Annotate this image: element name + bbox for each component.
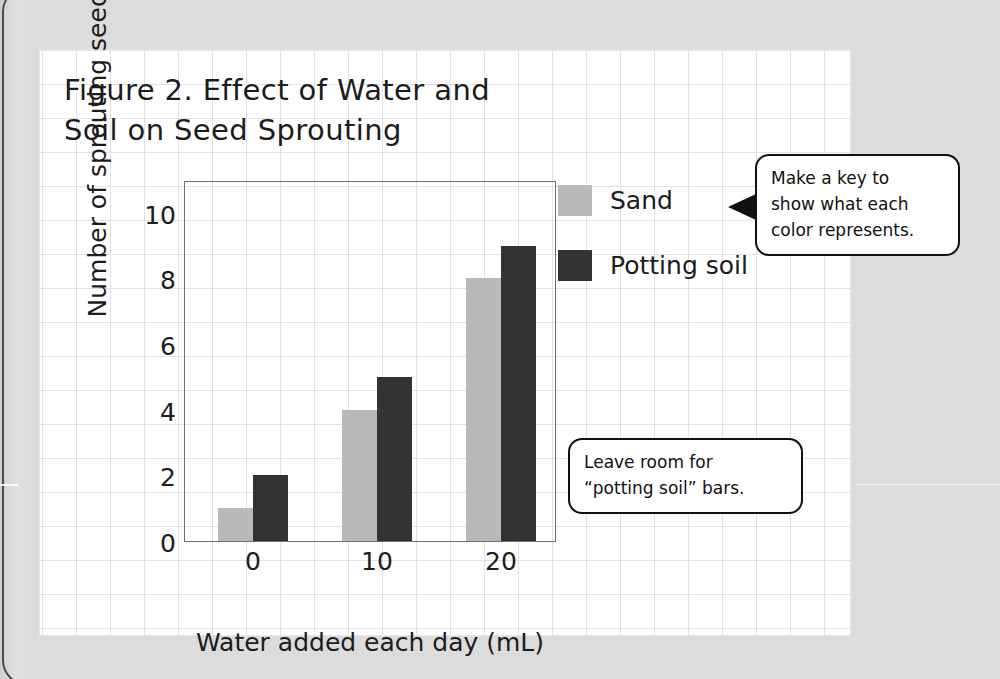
bar-potting-soil-10 xyxy=(377,377,412,541)
y-axis-tick-label: 2 xyxy=(160,465,176,490)
callout-key-line-1: Make a key to xyxy=(771,165,944,191)
y-axis-tick-label: 10 xyxy=(144,202,176,227)
legend-swatch-icon xyxy=(558,185,592,216)
x-axis-tick-label: 10 xyxy=(361,549,393,574)
callout-pointer-triangle-icon xyxy=(728,194,756,220)
graph-paper-sheet: Figure 2. Effect of Water and Soil on Se… xyxy=(40,50,850,635)
y-axis-tick-label: 8 xyxy=(160,268,176,293)
x-axis-tick-label: 20 xyxy=(485,549,517,574)
legend-label: Sand xyxy=(610,186,673,215)
bars-layer xyxy=(185,182,555,541)
legend-label: Potting soil xyxy=(610,251,748,280)
chart-title-line-1: Figure 2. Effect of Water and xyxy=(64,70,534,110)
x-axis-label: Water added each day (mL) xyxy=(184,628,556,657)
plot-area: 0246810 01020 xyxy=(184,181,556,542)
y-axis-tick-label: 0 xyxy=(160,531,176,556)
chart-title: Figure 2. Effect of Water and Soil on Se… xyxy=(64,70,534,150)
callout-key-line-2: show what each xyxy=(771,191,944,217)
legend-swatch-icon xyxy=(558,250,592,281)
page-fold-line-left xyxy=(0,484,18,486)
callout-make-a-key: Make a key to show what each color repre… xyxy=(755,154,960,256)
callout-room-line-2: “potting soil” bars. xyxy=(584,475,787,501)
y-axis-label: Number of sprouting seeds xyxy=(83,0,112,318)
bar-potting-soil-0 xyxy=(253,475,288,541)
x-axis-tick-label: 0 xyxy=(245,549,261,574)
y-axis-tick-label: 4 xyxy=(160,399,176,424)
callout-key-line-3: color represents. xyxy=(771,217,944,243)
bar-potting-soil-20 xyxy=(501,246,536,541)
legend-item-potting-soil: Potting soil xyxy=(558,249,788,281)
bar-sand-10 xyxy=(342,410,377,541)
chart-title-line-2: Soil on Seed Sprouting xyxy=(64,110,534,150)
callout-room-line-1: Leave room for xyxy=(584,449,787,475)
page-fold-line-right xyxy=(856,484,1000,485)
bar-sand-20 xyxy=(466,278,501,541)
y-axis-tick-label: 6 xyxy=(160,334,176,359)
bar-sand-0 xyxy=(218,508,253,541)
callout-leave-room: Leave room for “potting soil” bars. xyxy=(568,438,803,514)
